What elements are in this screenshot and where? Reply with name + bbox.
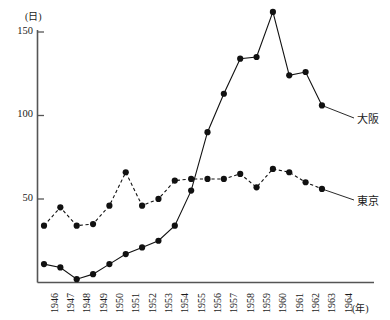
data-point [106,261,112,267]
x-tick-label-1949: 1949 [98,293,109,313]
data-point [90,221,96,227]
chart-container: (日) 150 100 50 1946194719481949195019511… [0,0,390,320]
x-tick-label-1953: 1953 [163,293,174,313]
x-axis-unit-label: (年) [352,300,369,315]
axis-lines [38,30,375,283]
data-point [319,186,325,192]
leader-line-tokyo [322,189,354,200]
data-point [303,69,309,75]
x-tick-label-1957: 1957 [228,293,239,313]
x-tick-label-1954: 1954 [179,293,190,313]
data-point [204,176,210,182]
data-point [188,176,194,182]
data-point [74,223,80,229]
x-tick-label-1948: 1948 [81,293,92,313]
x-tick-label-1962: 1962 [310,293,321,313]
data-point [155,196,161,202]
data-point [221,176,227,182]
series-line-osaka [44,12,322,279]
data-point [204,129,210,135]
data-point [286,169,292,175]
leader-line-osaka [322,105,354,118]
plot-area [0,0,390,320]
series-label-osaka: 大阪 [357,110,379,126]
data-point [41,261,47,267]
data-point [41,223,47,229]
data-point [106,203,112,209]
data-point [188,188,194,194]
series-line-tokyo [44,169,322,226]
data-point [172,178,178,184]
x-tick-label-1955: 1955 [196,293,207,313]
data-point [270,9,276,15]
x-tick-label-1961: 1961 [294,293,305,313]
data-point [253,184,259,190]
data-point [303,179,309,185]
data-point [172,223,178,229]
data-point [90,271,96,277]
data-point [237,56,243,62]
data-point [270,166,276,172]
x-tick-label-1960: 1960 [277,293,288,313]
data-point [286,72,292,78]
x-tick-label-1951: 1951 [130,293,141,313]
data-point [155,238,161,244]
data-point [253,54,259,60]
x-tick-label-1947: 1947 [65,293,76,313]
data-point [74,276,80,282]
data-point [57,204,63,210]
data-series-layer [41,9,354,282]
data-point [139,203,145,209]
x-tick-label-1959: 1959 [261,293,272,313]
x-tick-label-1958: 1958 [245,293,256,313]
x-tick-label-1963: 1963 [326,293,337,313]
data-point [57,264,63,270]
series-label-tokyo: 東京 [357,192,379,208]
data-point [123,251,129,257]
x-tick-label-1950: 1950 [114,293,125,313]
data-point [221,91,227,97]
data-point [123,169,129,175]
x-tick-label-1956: 1956 [212,293,223,313]
data-point [237,171,243,177]
x-tick-label-1952: 1952 [147,293,158,313]
x-tick-label-1946: 1946 [49,293,60,313]
data-point [139,244,145,250]
